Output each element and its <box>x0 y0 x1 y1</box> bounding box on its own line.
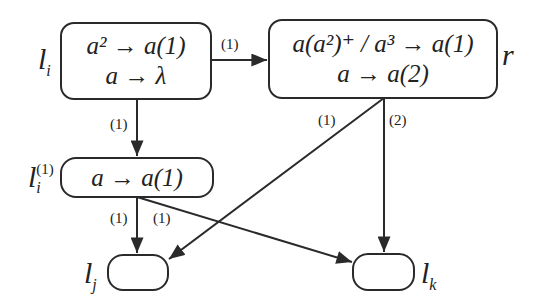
label-li-sub: i <box>46 62 50 79</box>
node-r: a(a²)⁺ / a³ → a(1) a → a(2) <box>268 19 498 99</box>
rule-li-1: a² → a(1) <box>86 31 185 61</box>
label-r-main: r <box>502 38 514 71</box>
module-diagram: a² → a(1) a → λ li a(a²)⁺ / a³ → a(1) a … <box>0 0 536 308</box>
node-li: a² → a(1) a → λ <box>60 22 212 100</box>
label-li1-sub: i <box>36 180 54 196</box>
rule-li-2: a → λ <box>106 61 167 91</box>
edge-label-li1-lk: (1) <box>153 211 171 226</box>
label-r: r <box>502 40 514 70</box>
edge-label-li-li1: (1) <box>110 117 128 132</box>
label-lk: lk <box>421 258 436 293</box>
edge-label-li1-lj: (1) <box>110 211 128 226</box>
rule-r-1: a(a²)⁺ / a³ → a(1) <box>293 29 474 59</box>
edge-label-li-r: (1) <box>221 37 239 52</box>
edge-label-r-lk: (2) <box>389 113 407 128</box>
label-lk-sub: k <box>429 276 436 293</box>
edge-label-r-lj: (1) <box>318 113 336 128</box>
node-lj <box>107 254 169 291</box>
edge-li1-to-lk <box>137 197 352 262</box>
node-li1: a → a(1) <box>60 157 214 198</box>
rule-li1-1: a → a(1) <box>91 163 183 193</box>
rule-r-2: a → a(2) <box>337 59 429 89</box>
label-li1-sup: (1) <box>36 162 54 177</box>
label-lj: lj <box>84 258 97 293</box>
label-li1: l(1)i <box>28 162 54 196</box>
label-li: li <box>38 44 51 79</box>
node-lk <box>352 253 415 291</box>
label-lj-sub: j <box>92 276 96 293</box>
label-li1-main: l <box>28 160 36 193</box>
